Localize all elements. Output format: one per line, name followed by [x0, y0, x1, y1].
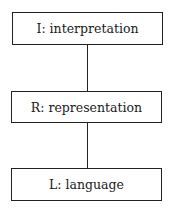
- node-label: I: interpretation: [36, 21, 138, 36]
- node-representation: R: representation: [11, 91, 162, 123]
- node-interpretation: I: interpretation: [12, 12, 163, 45]
- node-language: L: language: [11, 168, 162, 201]
- edge-representation-language: [87, 123, 89, 168]
- node-label: R: representation: [31, 100, 142, 115]
- edge-interpretation-representation: [87, 45, 89, 91]
- node-label: L: language: [49, 177, 124, 192]
